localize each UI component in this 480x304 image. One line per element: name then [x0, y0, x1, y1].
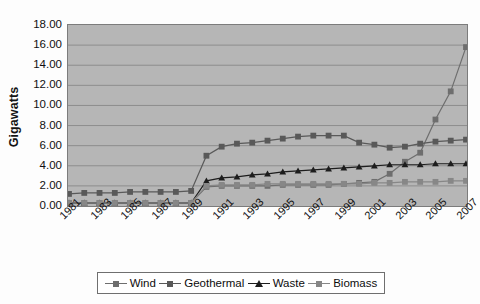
- data-point: [402, 144, 408, 150]
- data-point: [387, 180, 393, 186]
- legend-item-wind[interactable]: Wind: [105, 277, 156, 289]
- y-axis-tick: 18.00: [10, 18, 62, 30]
- y-axis-tick: 12.00: [10, 78, 62, 90]
- data-point: [265, 181, 271, 187]
- data-point: [326, 181, 332, 187]
- data-point: [387, 145, 393, 151]
- data-point: [433, 179, 439, 185]
- data-point: [463, 44, 467, 50]
- square-marker-icon: [105, 279, 127, 288]
- data-point: [448, 88, 454, 94]
- y-axis-tick: 6.00: [10, 139, 62, 151]
- data-point: [310, 133, 316, 139]
- legend-item-geothermal[interactable]: Geothermal: [159, 277, 244, 289]
- data-point: [417, 150, 423, 156]
- chart-legend: WindGeothermalWasteBiomass: [97, 272, 385, 294]
- square-marker-icon: [159, 279, 181, 288]
- data-point: [265, 138, 271, 144]
- data-point: [81, 190, 87, 196]
- data-point: [68, 191, 72, 197]
- legend-item-waste[interactable]: Waste: [248, 277, 305, 289]
- y-axis-tick: 16.00: [10, 38, 62, 50]
- legend-label: Wind: [130, 277, 156, 289]
- legend-label: Waste: [273, 277, 305, 289]
- data-point: [219, 182, 225, 188]
- y-axis-tick: 14.00: [10, 58, 62, 70]
- data-point: [112, 190, 118, 196]
- data-point: [295, 134, 301, 140]
- data-point: [463, 178, 467, 184]
- legend-label: Biomass: [333, 277, 377, 289]
- y-axis-tick: 4.00: [10, 159, 62, 171]
- data-point: [341, 133, 347, 139]
- data-point: [234, 141, 240, 147]
- data-point: [387, 171, 393, 177]
- data-point: [463, 137, 467, 143]
- data-point: [356, 181, 362, 187]
- legend-item-biomass[interactable]: Biomass: [308, 277, 377, 289]
- data-point: [295, 181, 301, 187]
- data-point: [173, 189, 179, 195]
- data-point: [280, 136, 286, 142]
- data-point: [249, 182, 255, 188]
- data-point: [326, 133, 332, 139]
- plot-svg: [68, 25, 467, 206]
- y-axis-tick-labels: 18.0016.0014.0012.0010.008.006.004.002.0…: [8, 0, 62, 304]
- data-point: [280, 181, 286, 187]
- triangle-marker-icon: [248, 279, 270, 288]
- data-point: [127, 189, 133, 195]
- data-point: [249, 140, 255, 146]
- chart-container: Gigawatts 18.0016.0014.0012.0010.008.006…: [0, 0, 480, 304]
- data-point: [433, 117, 439, 123]
- data-point: [142, 189, 148, 195]
- data-point: [158, 189, 164, 195]
- data-point: [341, 181, 347, 187]
- data-point: [448, 138, 454, 144]
- data-point: [219, 144, 225, 150]
- y-axis-tick: 0.00: [10, 199, 62, 211]
- data-point: [402, 179, 408, 185]
- data-point: [433, 139, 439, 145]
- data-point: [417, 179, 423, 185]
- data-point: [371, 142, 377, 148]
- legend-label: Geothermal: [184, 277, 244, 289]
- data-point: [356, 140, 362, 146]
- data-point: [204, 153, 210, 159]
- data-point: [310, 181, 316, 187]
- data-point: [417, 141, 423, 147]
- y-axis-tick: 2.00: [10, 179, 62, 191]
- data-point: [448, 178, 454, 184]
- data-point: [371, 180, 377, 186]
- data-point: [204, 183, 210, 189]
- y-axis-tick: 8.00: [10, 119, 62, 131]
- square-marker-icon: [308, 279, 330, 288]
- y-axis-tick: 10.00: [10, 98, 62, 110]
- data-point: [97, 190, 103, 196]
- plot-area: [67, 24, 468, 207]
- data-point: [234, 182, 240, 188]
- data-point: [188, 188, 194, 194]
